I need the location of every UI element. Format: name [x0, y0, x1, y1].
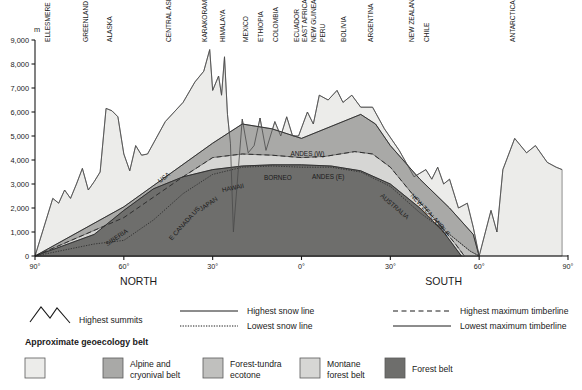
inner-label: ANDES (W) — [290, 150, 324, 158]
region-label: NEW ZEALAND — [408, 0, 415, 42]
region-label: ARGENTINA — [367, 3, 374, 42]
x-tick-label: 60° — [474, 262, 485, 271]
x-tick-label: 60° — [118, 262, 129, 271]
hemisphere-label: NORTH — [120, 275, 157, 287]
x-tick-label: 90° — [30, 262, 41, 271]
y-tick-label: 6,000 — [11, 108, 30, 117]
legend-belt-label-line2: cryonival belt — [130, 370, 181, 380]
y-tick-label: 0 — [25, 252, 29, 261]
legend-swatch — [25, 358, 45, 378]
legend-belt-label: Forest belt — [412, 364, 453, 374]
legend-swatch — [203, 358, 223, 378]
inner-label: BORNEO — [264, 174, 292, 181]
region-label: ECUADOR — [293, 9, 300, 42]
region-label: MEXICO — [242, 16, 249, 42]
region-label: CENTRAL ASIA — [165, 0, 172, 42]
y-tick-label: 9,000 — [11, 36, 30, 45]
region-label: CHILE — [423, 22, 430, 42]
legend-belt-label-line2: forest belt — [327, 370, 365, 380]
region-label: GREENLAND — [82, 1, 89, 42]
region-label: KARAKORAM — [201, 0, 208, 42]
y-tick-label: 3,000 — [11, 180, 30, 189]
region-label: COLOMBIA — [272, 7, 279, 42]
legend-belt-label-line2: ecotone — [230, 370, 261, 380]
legend-highest-summits-label: Highest summits — [79, 315, 143, 325]
hemisphere-label: SOUTH — [425, 275, 462, 287]
x-tick-label: 90° — [563, 262, 574, 271]
y-tick-label: 5,000 — [11, 132, 30, 141]
legend-line-label: Highest maximum timberline — [460, 306, 569, 316]
legend-belt-label: Alpine and — [130, 359, 171, 369]
region-label: EAST AFRICA — [301, 0, 308, 42]
region-label: HIMALAYA — [219, 9, 226, 42]
legend-line-label: Lowest snow line — [247, 321, 313, 331]
legend-belt-title: Approximate geoecology belt — [25, 337, 148, 347]
x-tick-label: 30° — [385, 262, 396, 271]
y-tick-label: 4,000 — [11, 156, 30, 165]
y-tick-label: 8,000 — [11, 60, 30, 69]
region-label: ETHIOPIA — [257, 11, 264, 42]
region-label: PERU — [319, 23, 326, 42]
y-tick-label: 1,000 — [11, 228, 30, 237]
chart-canvas: USASIBERIAE CANADA USJAPANHAWAIIBORNEOAN… — [0, 0, 582, 390]
inner-label: ANDES (E) — [312, 173, 344, 181]
legend-swatch — [103, 358, 123, 378]
region-label: BOLIVIA — [340, 16, 347, 42]
legend-belt-label: Forest-tundra — [230, 359, 282, 369]
y-tick-label: 2,000 — [11, 204, 30, 213]
region-label: ALASKA — [106, 16, 113, 42]
y-axis-unit-label: m — [34, 25, 40, 34]
y-tick-label: 7,000 — [11, 84, 30, 93]
legend-swatch — [385, 358, 405, 378]
region-label: ANTARCTICA — [509, 0, 516, 42]
region-label: NEW GUINEA — [310, 0, 317, 42]
geoecology-chart-figure: USASIBERIAE CANADA USJAPANHAWAIIBORNEOAN… — [0, 0, 582, 390]
legend-line-label: Highest snow line — [247, 306, 315, 316]
x-tick-label: 0° — [298, 262, 305, 271]
region-label: ELLESMERE ISLAND — [44, 0, 51, 42]
legend-belt-label: Montane — [327, 359, 361, 369]
legend-line-label: Lowest maximum timberline — [460, 321, 567, 331]
x-tick-label: 30° — [207, 262, 218, 271]
legend-swatch — [300, 358, 320, 378]
